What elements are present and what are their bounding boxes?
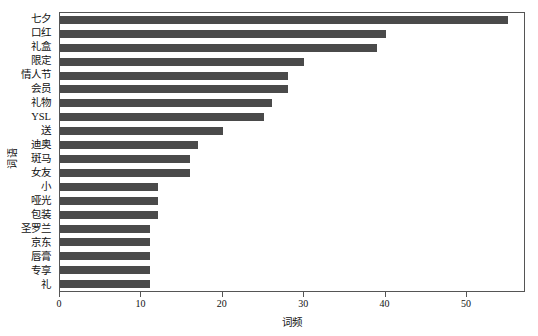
y-axis-tick-label: 专享: [8, 264, 54, 278]
bar-row: [60, 138, 524, 152]
bar: [60, 169, 190, 177]
y-axis-tick-label: 送: [8, 124, 54, 138]
x-axis-tick-label: 30: [298, 298, 308, 309]
y-axis-tick-label: 圣罗兰: [8, 222, 54, 236]
x-axis-tick: [303, 292, 304, 297]
bar-row: [60, 236, 524, 250]
x-axis-tick-label: 10: [135, 298, 145, 309]
bar: [60, 85, 288, 93]
bar-row: [60, 27, 524, 41]
bar: [60, 225, 150, 233]
y-axis-tick-label: 哑光: [8, 194, 54, 208]
bar-row: [60, 83, 524, 97]
plot-area: [59, 12, 525, 292]
bar-row: [60, 110, 524, 124]
bar-row: [60, 180, 524, 194]
bar-row: [60, 249, 524, 263]
x-axis-tick: [140, 292, 141, 297]
bar: [60, 238, 150, 246]
bar: [60, 72, 288, 80]
y-axis-tick-label: 唇膏: [8, 250, 54, 264]
x-axis-tick: [466, 292, 467, 297]
x-axis-tick-label: 0: [57, 298, 62, 309]
x-axis-tick: [59, 292, 60, 297]
bar: [60, 280, 150, 288]
bar-row: [60, 69, 524, 83]
bar-row: [60, 13, 524, 27]
bar-row: [60, 166, 524, 180]
x-axis-tick-label: 20: [217, 298, 227, 309]
bar: [60, 252, 150, 260]
y-axis-tick-label: 礼物: [8, 96, 54, 110]
y-axis-tick-label: YSL: [8, 110, 54, 124]
y-axis-tick-label: 包装: [8, 208, 54, 222]
bar: [60, 58, 304, 66]
y-axis-tick-label: 限定: [8, 54, 54, 68]
bar-row: [60, 263, 524, 277]
bar-row: [60, 96, 524, 110]
y-axis-tick-label: 迪奥: [8, 138, 54, 152]
x-axis-tick-labels: 01020304050: [59, 298, 525, 312]
bar: [60, 127, 223, 135]
bar-row: [60, 208, 524, 222]
bar: [60, 197, 158, 205]
bar-row: [60, 55, 524, 69]
bar-row: [60, 41, 524, 55]
y-axis-tick-label: 口红: [8, 26, 54, 40]
y-axis-category-labels: 七夕口红礼盒限定情人节会员礼物YSL送迪奥斑马女友小哑光包装圣罗兰京东唇膏专享礼: [8, 12, 54, 292]
y-axis-tick-label: 情人节: [8, 68, 54, 82]
y-axis-tick-label: 斑马: [8, 152, 54, 166]
x-axis-tick: [222, 292, 223, 297]
bar: [60, 44, 377, 52]
bar: [60, 30, 386, 38]
x-axis-title: 词频: [59, 314, 525, 329]
bar: [60, 183, 158, 191]
y-axis-tick-label: 小: [8, 180, 54, 194]
x-axis-tick-label: 50: [461, 298, 471, 309]
y-axis-tick-label: 礼盒: [8, 40, 54, 54]
bar: [60, 155, 190, 163]
y-axis-tick-label: 礼: [8, 278, 54, 292]
bar: [60, 141, 198, 149]
bar-series: [60, 13, 524, 291]
bar-row: [60, 222, 524, 236]
bar-row: [60, 152, 524, 166]
y-axis-tick-label: 会员: [8, 82, 54, 96]
bar: [60, 16, 508, 24]
bar: [60, 113, 264, 121]
bar-row: [60, 194, 524, 208]
y-axis-tick-label: 女友: [8, 166, 54, 180]
bar-row: [60, 277, 524, 291]
bar: [60, 211, 158, 219]
y-axis-tick-label: 七夕: [8, 12, 54, 26]
x-axis-tick-label: 40: [380, 298, 390, 309]
bar: [60, 99, 272, 107]
bar: [60, 266, 150, 274]
y-axis-tick-label: 京东: [8, 236, 54, 250]
bar-chart: 词语 七夕口红礼盒限定情人节会员礼物YSL送迪奥斑马女友小哑光包装圣罗兰京东唇膏…: [0, 0, 538, 336]
x-axis-tick: [385, 292, 386, 297]
bar-row: [60, 124, 524, 138]
